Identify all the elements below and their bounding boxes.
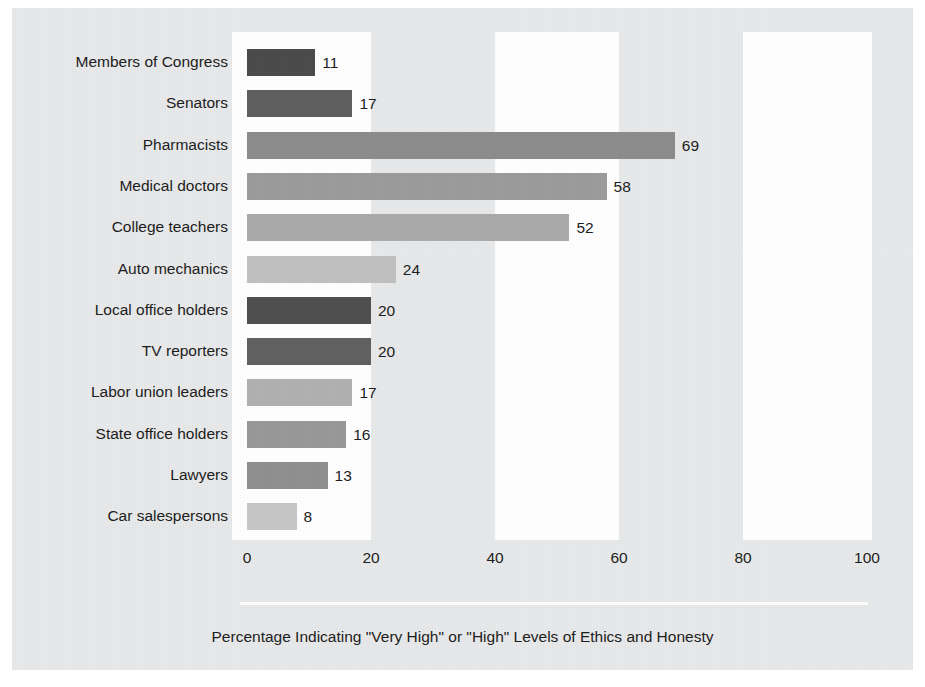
bar-value-label: 20	[378, 297, 395, 324]
figure-panel: Members of CongressSenatorsPharmacistsMe…	[12, 8, 913, 670]
bar	[247, 132, 675, 159]
bar	[247, 379, 352, 406]
category-label: State office holders	[12, 426, 228, 442]
bar	[247, 49, 315, 76]
bar	[247, 503, 297, 530]
category-label: Members of Congress	[12, 54, 228, 70]
category-label: Labor union leaders	[12, 384, 228, 400]
bar-value-label: 52	[576, 214, 593, 241]
bar-value-label: 69	[682, 132, 699, 159]
axis-separator-rule	[240, 602, 868, 605]
bar	[247, 173, 607, 200]
category-label: Senators	[12, 95, 228, 111]
x-tick-label: 100	[854, 548, 880, 568]
bar	[247, 256, 396, 283]
bar-value-label: 24	[403, 256, 420, 283]
x-tick-label: 0	[243, 548, 252, 568]
bar	[247, 338, 371, 365]
category-label: TV reporters	[12, 343, 228, 359]
bar-value-label: 13	[335, 462, 352, 489]
bar-value-label: 11	[322, 49, 338, 76]
bar	[247, 462, 328, 489]
bar-value-label: 17	[359, 90, 376, 117]
bar	[247, 421, 346, 448]
bar	[247, 297, 371, 324]
category-label: Pharmacists	[12, 137, 228, 153]
category-axis-labels: Members of CongressSenatorsPharmacistsMe…	[12, 32, 228, 540]
plot-area: 11176958522420201716138	[232, 32, 872, 540]
bar	[247, 90, 352, 117]
category-label: Local office holders	[12, 302, 228, 318]
x-axis-ticks: 020406080100	[232, 548, 892, 574]
category-label: Medical doctors	[12, 178, 228, 194]
category-label: Auto mechanics	[12, 261, 228, 277]
x-tick-label: 40	[486, 548, 503, 568]
bar-value-label: 20	[378, 338, 395, 365]
chart-caption: Percentage Indicating "Very High" or "Hi…	[12, 628, 913, 646]
category-label: Car salespersons	[12, 508, 228, 524]
bars-layer: 11176958522420201716138	[232, 32, 872, 540]
bar-value-label: 16	[353, 421, 370, 448]
x-tick-label: 60	[610, 548, 627, 568]
bar-value-label: 17	[359, 379, 376, 406]
bar-value-label: 58	[614, 173, 631, 200]
category-label: College teachers	[12, 219, 228, 235]
bar	[247, 214, 569, 241]
category-label: Lawyers	[12, 467, 228, 483]
bar-value-label: 8	[304, 503, 313, 530]
x-tick-label: 80	[734, 548, 751, 568]
x-tick-label: 20	[362, 548, 379, 568]
